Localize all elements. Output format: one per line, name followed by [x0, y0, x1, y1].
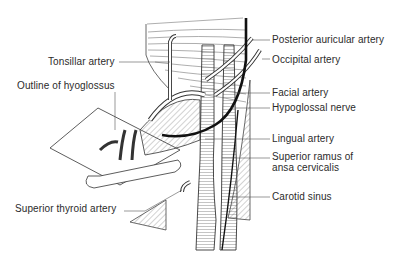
label-occipital-artery: Occipital artery — [272, 54, 340, 65]
label-superior-ramus-line1: Superior ramus of — [272, 151, 353, 162]
label-hypoglossal-nerve: Hypoglossal nerve — [272, 102, 356, 113]
label-superior-thyroid-artery: Superior thyroid artery — [15, 203, 116, 214]
label-tonsillar-artery: Tonsillar artery — [48, 56, 115, 67]
label-posterior-auricular-artery: Posterior auricular artery — [272, 34, 384, 45]
label-carotid-sinus: Carotid sinus — [272, 191, 332, 202]
label-outline-of-hyoglossus: Outline of hyoglossus — [17, 80, 115, 91]
anatomy-diagram: Tonsillar artery Outline of hyoglossus S… — [0, 0, 407, 256]
label-facial-artery: Facial artery — [272, 87, 328, 98]
label-lingual-artery: Lingual artery — [272, 133, 334, 144]
label-superior-ramus-line2: ansa cervicalis — [272, 162, 339, 173]
